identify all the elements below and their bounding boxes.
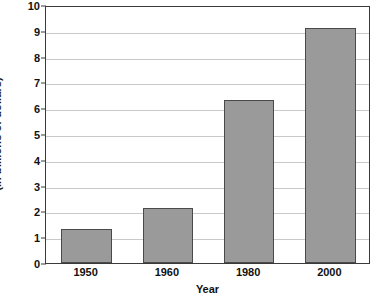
- bar: [224, 100, 274, 263]
- y-axis-tick-label: 9: [34, 26, 40, 37]
- bar-chart: GDP (in billions of dollars) 01234567891…: [0, 0, 377, 302]
- x-axis-tick-labels: 1950196019802000: [45, 266, 370, 284]
- x-axis-tick-label: 1950: [73, 266, 97, 278]
- x-axis-title: Year: [45, 283, 370, 295]
- x-axis-tick-label: 1980: [236, 266, 260, 278]
- x-axis-tick-label: 1960: [155, 266, 179, 278]
- x-axis-tick-label: 2000: [317, 266, 341, 278]
- y-axis-title-line-2: (in billions of dollars): [0, 77, 3, 191]
- y-axis-tick-label: 7: [34, 78, 40, 89]
- y-axis-tick-label: 1: [34, 233, 40, 244]
- y-axis-tick-label: 0: [34, 259, 40, 270]
- bar: [305, 28, 355, 263]
- y-axis-tick-label: 8: [34, 52, 40, 63]
- bar: [143, 208, 193, 263]
- y-axis-tick-label: 5: [34, 130, 40, 141]
- y-axis-tick-label: 2: [34, 207, 40, 218]
- bars-group: [46, 7, 369, 263]
- bar: [61, 229, 111, 263]
- y-axis-tick-label: 10: [28, 1, 40, 12]
- y-axis-tick-label: 6: [34, 104, 40, 115]
- y-axis-tick-label: 4: [34, 155, 40, 166]
- y-axis-tick-label: 3: [34, 181, 40, 192]
- plot-area: [45, 6, 370, 264]
- y-axis-tick-labels: 012345678910: [24, 6, 40, 264]
